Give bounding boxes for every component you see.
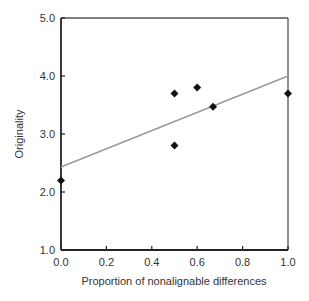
data-point-diamond (193, 84, 201, 92)
y-tick-label: 2.0 (40, 186, 55, 198)
y-tick-label: 4.0 (40, 70, 55, 82)
x-tick-label: 1.0 (280, 256, 295, 268)
y-axis-label: Originality (13, 109, 25, 158)
data-point-diamond (171, 89, 179, 97)
data-point-diamond (171, 142, 179, 150)
data-points (57, 84, 292, 185)
x-tick-label: 0.8 (235, 256, 250, 268)
x-tick-label: 0.0 (53, 256, 68, 268)
y-tick-label: 1.0 (40, 244, 55, 256)
plot-frame (61, 18, 288, 250)
x-tick-label: 0.6 (190, 256, 205, 268)
y-tick-label: 5.0 (40, 12, 55, 24)
x-tick-label: 0.2 (99, 256, 114, 268)
x-tick-label: 0.4 (144, 256, 159, 268)
data-point-diamond (284, 89, 292, 97)
x-axis-label: Proportion of nonalignable differences (81, 275, 267, 287)
scatter-chart: 1.02.03.04.05.0 0.00.20.40.60.81.0 Propo… (0, 0, 309, 301)
data-point-diamond (57, 176, 65, 184)
y-tick-label: 3.0 (40, 128, 55, 140)
data-point-diamond (209, 103, 217, 111)
